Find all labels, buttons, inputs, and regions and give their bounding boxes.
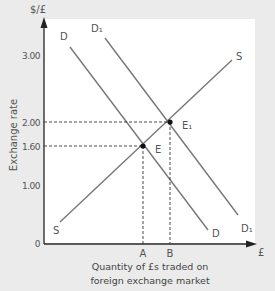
- curve-label-end-d1: D₁: [241, 223, 253, 234]
- point-e: [140, 143, 145, 148]
- point-label-e: E: [155, 144, 161, 155]
- y-unit-label: $/£: [30, 4, 46, 15]
- curve-label-start-d1: D₁: [91, 23, 103, 34]
- x-tick-label: B: [167, 248, 174, 259]
- y-tick-label: 1.00: [22, 181, 41, 191]
- curve-label-start-d: D: [60, 31, 68, 42]
- y-tick-label: 1.60: [22, 142, 41, 152]
- x-axis-title-line: Quantity of £s traded on: [92, 261, 208, 272]
- plot-area: [44, 19, 255, 245]
- curve-label-end-d: D: [212, 228, 220, 239]
- curve-label-start-s: S: [53, 225, 59, 236]
- point-e1: [167, 119, 172, 124]
- point-label-e1: E₁: [182, 120, 192, 131]
- x-unit-label: £: [258, 247, 264, 258]
- y-axis-title: Exchange rate: [8, 99, 19, 171]
- exchange-rate-chart: $/££01.001.602.003.00Exchange rateSSDDD₁…: [0, 0, 275, 291]
- y-tick-label: 0: [35, 239, 41, 249]
- x-axis-title-line: foreign exchange market: [90, 275, 210, 286]
- y-tick-label: 2.00: [22, 118, 41, 128]
- y-tick-label: 3.00: [22, 51, 41, 61]
- x-tick-label: A: [140, 248, 147, 259]
- curve-label-end-s: S: [236, 51, 242, 62]
